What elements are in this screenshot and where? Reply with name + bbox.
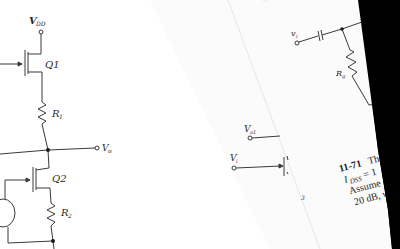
q1-label: Q1 [45,59,60,70]
stray-mark: 3 [301,194,305,201]
textbook-photo: V DD Q1 R 1 V o Q2 R 2 V o1 V i 3 v i R … [0,0,400,249]
r1-sub: 1 [59,113,63,120]
pages-drawing: V DD Q1 R 1 V o Q2 R 2 V o1 V i 3 v i R … [0,0,400,249]
q2-label: Q2 [52,173,67,184]
vo1-sub: o1 [250,129,256,135]
r2-sub: 2 [67,212,72,219]
vo-sub: o [108,147,112,154]
vdd-sub: DD [35,20,46,27]
rg-label: R [335,69,342,78]
rg-sub: g [342,73,345,80]
